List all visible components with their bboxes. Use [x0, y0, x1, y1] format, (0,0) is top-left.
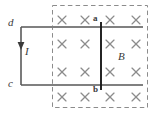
field-cross-icon: [132, 16, 140, 24]
field-cross-icon: [106, 68, 114, 76]
field-cross-icon: [132, 93, 140, 101]
rod-endpoint-label-a: a: [93, 14, 98, 23]
field-cross-icon: [81, 93, 89, 101]
field-cross-icon: [106, 16, 114, 24]
field-cross-icon: [58, 68, 66, 76]
current-label: I: [25, 46, 29, 57]
terminal-label-d: d: [8, 17, 14, 28]
field-cross-icon: [132, 68, 140, 76]
physics-diagram: d c I B a b: [0, 0, 158, 118]
field-cross-icon: [81, 40, 89, 48]
field-cross-icon: [81, 16, 89, 24]
field-cross-icon: [106, 40, 114, 48]
field-cross-icon: [58, 93, 66, 101]
terminal-label-c: c: [8, 78, 13, 89]
field-cross-icon: [58, 40, 66, 48]
magnetic-field-region-border: [53, 6, 148, 108]
field-cross-icon: [132, 40, 140, 48]
field-cross-icon: [58, 16, 66, 24]
field-cross-icon: [81, 68, 89, 76]
rod-endpoint-label-b: b: [93, 85, 98, 94]
field-cross-icon: [106, 93, 114, 101]
current-arrow-icon: [18, 42, 25, 50]
magnetic-field-label: B: [118, 51, 125, 62]
field-cross-group: [58, 16, 140, 101]
diagram-canvas: [0, 0, 158, 118]
